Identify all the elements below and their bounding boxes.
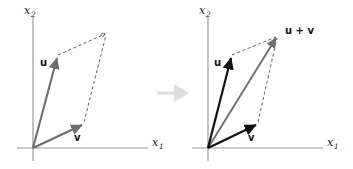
right-x-axis-label-base: x [327, 136, 334, 149]
vector-addition-figure: x 2 x 1 u v x [0, 0, 353, 169]
right-vector-v-label: v [248, 132, 255, 143]
right-x-axis-label: x 1 [327, 136, 339, 151]
left-dashed-edge-from-u [58, 34, 105, 55]
left-x-axis-label-base: x [152, 136, 159, 149]
left-vector-u-label: u [40, 57, 47, 68]
right-panel: x 2 x 1 u v u + v [192, 4, 339, 161]
left-dashed-edge-from-v [84, 35, 106, 122]
left-y-axis-label-base: x [24, 4, 31, 17]
left-panel: x 2 x 1 u v [17, 4, 164, 161]
right-vector-sum-label: u + v [285, 25, 314, 36]
left-x-axis-label: x 1 [152, 136, 164, 151]
right-y-axis-label-subscript: 2 [205, 10, 211, 19]
left-y-axis-label-subscript: 2 [30, 10, 36, 19]
right-dashed-edge-from-u [232, 37, 276, 55]
left-vector-u [33, 58, 57, 148]
left-x-axis-label-subscript: 1 [159, 142, 164, 151]
left-y-axis-label: x 2 [24, 4, 36, 19]
right-vector-u-label: u [214, 57, 221, 68]
figure-canvas: x 2 x 1 u v x [0, 0, 353, 169]
right-vector-u [208, 58, 231, 148]
right-y-axis-label-base: x [199, 4, 206, 17]
right-x-axis-label-subscript: 1 [334, 142, 339, 151]
left-vector-v-label: v [74, 132, 81, 143]
right-y-axis-label: x 2 [199, 4, 211, 19]
